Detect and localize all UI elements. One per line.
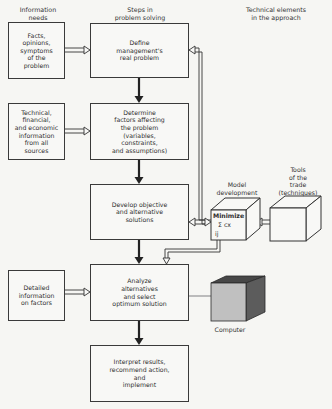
step-develop-objective: Develop objective and alternative soluti…	[90, 184, 189, 240]
model-development-label: Model development	[212, 181, 262, 196]
step-interpret-results: Interpret results, recommend action, and…	[90, 345, 189, 402]
model-subscript-text: ij	[215, 229, 218, 238]
step-analyze-alternatives: Analyze alternatives and select optimum …	[90, 264, 189, 321]
tools-of-trade-label: Tools of the trade (techniques)	[270, 166, 326, 196]
info-box-detailed: Detailed information on factors	[8, 270, 65, 321]
feedback-loop	[163, 46, 270, 296]
info-box-technical-financial: Technical, financial, and economic infor…	[8, 103, 65, 160]
computer-label: Computer	[210, 326, 250, 334]
info-box-facts: Facts, opinions, symptoms of the problem	[8, 22, 65, 79]
header-information-needs: Information needs	[12, 6, 64, 22]
header-steps: Steps in problem solving	[100, 6, 180, 22]
info-arrows	[65, 46, 90, 296]
step-define-problem: Define management's real problem	[90, 23, 189, 78]
computer-cube	[211, 276, 265, 321]
header-technical-elements: Technical elements in the approach	[236, 6, 316, 22]
model-sum-text: Σ cx	[218, 220, 231, 229]
model-minimize-text: Minimize	[213, 211, 244, 220]
step-determine-factors: Determine factors affecting the problem …	[90, 103, 189, 160]
tools-cube	[270, 196, 321, 241]
